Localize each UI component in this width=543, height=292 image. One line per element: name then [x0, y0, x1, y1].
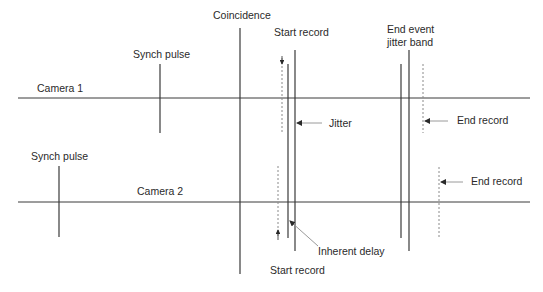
- inherent-delay-label: Inherent delay: [318, 245, 385, 257]
- end-event-label-line2: jitter band: [386, 36, 433, 48]
- end-record-2-label: End record: [471, 175, 523, 187]
- camera-sync-timing-diagram: Coincidence Synch pulse Camera 1 Start r…: [0, 0, 543, 292]
- jitter-label: Jitter: [329, 117, 352, 129]
- camera-2-label: Camera 2: [137, 185, 183, 197]
- start-record-top-label: Start record: [274, 26, 329, 38]
- coincidence-label: Coincidence: [213, 9, 271, 21]
- camera-1-label: Camera 1: [37, 82, 83, 94]
- synch-pulse-1-label: Synch pulse: [133, 48, 190, 60]
- inherent-delay-arrow-icon: [290, 221, 318, 246]
- end-event-label-line1: End event: [387, 23, 434, 35]
- synch-pulse-2-label: Synch pulse: [31, 150, 88, 162]
- start-record-bottom-label: Start record: [270, 264, 325, 276]
- end-record-1-label: End record: [457, 114, 509, 126]
